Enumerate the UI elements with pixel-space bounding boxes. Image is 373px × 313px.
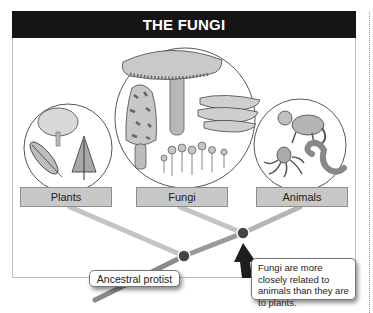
plants-circle	[24, 104, 112, 192]
ancestral-protist-callout: Ancestral protist	[89, 270, 180, 287]
group-label-plants: Plants	[20, 187, 112, 207]
animals-circle	[254, 99, 346, 191]
fungi-circle	[115, 48, 260, 188]
bracket-fungus-icon	[198, 95, 260, 132]
group-label-fungi: Fungi	[136, 187, 228, 207]
relationship-note-callout: Fungi are more closely related to animal…	[251, 258, 356, 300]
branch-node-fungi-animals	[237, 227, 249, 239]
branch-node-ancestor	[178, 250, 190, 262]
group-label-animals: Animals	[256, 187, 348, 207]
